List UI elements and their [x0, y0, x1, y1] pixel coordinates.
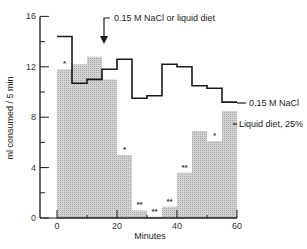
chart-figure: *********** 04812160204060 0.15 M NaCl o…: [0, 0, 307, 249]
x-tick-label: 20: [112, 221, 122, 231]
arrow-annotation: 0.15 M NaCl or liquid diet: [100, 13, 216, 44]
y-tick-label: 4: [31, 163, 36, 173]
liquid-diet-bars: [57, 57, 237, 218]
bar: [162, 207, 177, 218]
significance-marker: *: [213, 131, 217, 140]
significance-marker: **: [181, 163, 188, 172]
x-tick-label: 60: [232, 221, 242, 231]
x-tick-label: 40: [172, 221, 182, 231]
y-tick-label: 8: [31, 112, 36, 122]
bar: [102, 79, 117, 218]
y-tick-label: 0: [31, 213, 36, 223]
bar: [222, 111, 237, 218]
significance-marker: **: [136, 200, 143, 209]
significance-marker: *: [63, 59, 67, 68]
y-axis-title: ml consumed / 5 min: [5, 76, 15, 159]
bar: [207, 141, 222, 218]
significance-marker: *: [123, 145, 127, 154]
y-tick-label: 12: [26, 62, 36, 72]
bar: [87, 57, 102, 218]
bar: [132, 210, 147, 218]
diet-series-label: Liquid diet, 25%: [239, 119, 303, 129]
bar: [177, 173, 192, 218]
bar: [72, 64, 87, 218]
x-tick-label: 0: [54, 221, 59, 231]
nacl-series-label: 0.15 M NaCl: [249, 98, 299, 108]
x-axis-title: Minutes: [134, 231, 166, 241]
bar: [192, 131, 207, 218]
significance-marker: **: [166, 197, 173, 206]
y-tick-label: 16: [26, 11, 36, 21]
bar: [57, 69, 72, 218]
significance-marker: **: [151, 207, 158, 216]
bar: [117, 155, 132, 218]
arrow-note: 0.15 M NaCl or liquid diet: [114, 13, 216, 23]
arrow-head-icon: [100, 36, 108, 44]
